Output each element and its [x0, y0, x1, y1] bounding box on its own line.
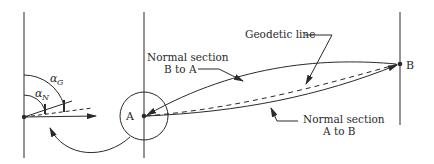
- magnify-callout-arrow: [50, 128, 130, 153]
- geodesy-diagram: α G α N A B Normal section B to A Geodet…: [0, 0, 434, 164]
- normal-a-to-b-leader: [271, 108, 298, 121]
- alpha-n-subscript: N: [41, 93, 50, 102]
- normal-a-to-b-label-line1: Normal section: [303, 113, 385, 125]
- geodetic-line-label: Geodetic line: [245, 28, 315, 40]
- point-b: [398, 62, 403, 67]
- point-a: [142, 114, 147, 119]
- normal-b-to-a-label-line2: B to A: [164, 63, 197, 75]
- normal-a-to-b-label-line2: A to B: [322, 125, 356, 137]
- alpha-g-subscript: G: [57, 78, 64, 87]
- azimuth-inset: α G α N: [22, 72, 96, 119]
- point-a-label: A: [125, 110, 135, 123]
- point-b-label: B: [406, 59, 414, 72]
- normal-b-to-a-label-line1: Normal section: [147, 51, 229, 63]
- normal-b-to-a-leader: [198, 69, 243, 81]
- geodetic-line-leader: [305, 35, 332, 84]
